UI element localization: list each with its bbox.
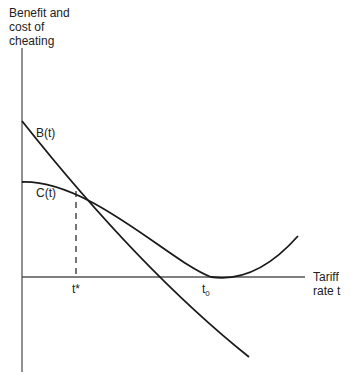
y-axis-label-line-3: cheating [9,34,70,48]
cost-curve-c [22,182,298,278]
curve-label-c: C(t) [36,186,56,200]
tick-label-t0-sub: 0 [205,289,209,298]
x-axis-label-line-2: rate t [313,284,340,298]
y-axis-label-line-2: cost of [9,20,70,34]
benefit-curve-b [22,121,249,357]
x-axis-label-line-1: Tariff [313,270,340,284]
x-axis-label: Tariff rate t [313,270,340,298]
tick-label-t0: t0 [202,282,210,301]
tick-label-t-star: t* [72,282,80,296]
curve-label-b: B(t) [36,126,55,140]
y-axis-label: Benefit and cost of cheating [9,6,70,48]
y-axis-label-line-1: Benefit and [9,6,70,20]
